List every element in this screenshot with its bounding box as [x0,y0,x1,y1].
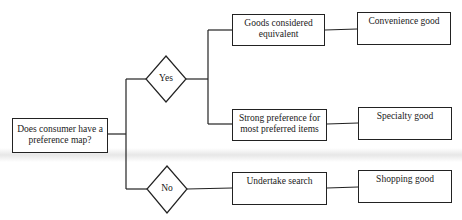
start-question-label: Does consumer have a preference map? [13,124,107,146]
specialty-good-box: Specialty good [358,107,452,140]
convenience-good-box: Convenience good [357,12,451,45]
shopping-good-box: Shopping good [358,170,452,203]
decision-yes-label: Yes [146,73,186,83]
undertake-search-box: Undertake search [232,172,327,205]
convenience-good-label: Convenience good [358,16,450,27]
goods-equivalent-label: Goods considered equivalent [233,18,324,40]
shopping-good-label: Shopping good [359,174,451,185]
decision-no-label: No [147,183,187,193]
start-question-box: Does consumer have a preference map? [12,118,108,153]
undertake-search-label: Undertake search [233,176,326,187]
strong-preference-label: Strong preference for most preferred ite… [233,113,326,135]
goods-equivalent-box: Goods considered equivalent [232,14,325,46]
specialty-good-label: Specialty good [359,111,451,122]
strong-preference-box: Strong preference for most preferred ite… [232,109,327,141]
